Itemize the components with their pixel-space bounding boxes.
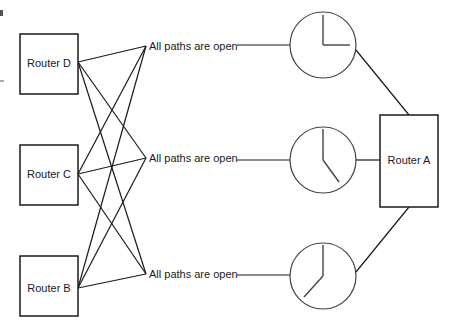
network-diagram: Router D Router C Router B All paths are… xyxy=(0,0,453,332)
router-b: Router B xyxy=(20,256,78,316)
router-a: Router A xyxy=(380,115,438,207)
router-d: Router D xyxy=(20,34,78,94)
clock-icon-3oclock xyxy=(290,12,356,78)
path-label-1: All paths are open xyxy=(149,40,238,52)
clock-icon-5oclock xyxy=(290,127,356,193)
router-c: Router C xyxy=(20,145,78,205)
mesh-connections xyxy=(78,46,146,288)
clock-icon-7oclock xyxy=(290,243,356,309)
router-b-label: Router B xyxy=(27,282,70,294)
router-d-label: Router D xyxy=(27,57,71,69)
edge-mark xyxy=(0,10,3,16)
router-a-label: Router A xyxy=(388,154,431,166)
router-c-label: Router C xyxy=(27,168,71,180)
link-clock1-router-a xyxy=(356,50,409,115)
path-label-3: All paths are open xyxy=(149,268,238,280)
link-clock3-router-a xyxy=(356,207,409,272)
path-label-2: All paths are open xyxy=(149,152,238,164)
